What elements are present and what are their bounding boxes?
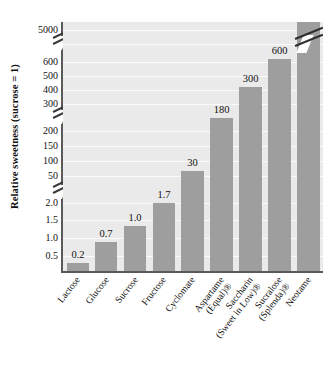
x-axis-category-labels: LactoseGlucoseSucroseFructoseCyclomateAs… <box>0 273 334 365</box>
bar-value-label: 30 <box>187 158 198 169</box>
y-axis-tick-labels: 5000600500400300200150100502.01.51.00.5 <box>24 0 60 280</box>
plot-area: 0.20.71.01.7301803006007000 <box>63 22 323 271</box>
y-tick-label: 5000 <box>38 25 58 35</box>
bar-value-label: 1.0 <box>128 213 141 224</box>
y-tick-label: 0.5 <box>46 251 59 261</box>
bar[interactable] <box>268 59 291 271</box>
category-label-name: Sucrose <box>113 274 140 305</box>
bar-value-label: 1.7 <box>157 190 170 201</box>
bar[interactable] <box>67 263 89 271</box>
bar-value-label: 0.2 <box>71 250 84 261</box>
bar-value-label: 180 <box>214 105 230 116</box>
bar[interactable] <box>153 203 175 271</box>
bar-value-label: 300 <box>243 74 259 85</box>
bar[interactable] <box>95 242 117 271</box>
bar-value-label: 0.7 <box>99 229 112 240</box>
bar[interactable] <box>297 22 320 271</box>
bar[interactable] <box>210 118 233 271</box>
bar[interactable] <box>124 226 146 271</box>
y-tick-label: 2.0 <box>46 198 59 208</box>
y-tick-label: 50 <box>48 171 58 181</box>
bar-value-label: 600 <box>272 46 288 57</box>
category-label-name: Fructose <box>139 274 168 307</box>
y-tick-label: 1.5 <box>46 215 59 225</box>
y-axis-title-text: Relative sweetness (sucrose = 1) <box>9 64 20 209</box>
y-tick-label: 150 <box>43 141 58 151</box>
category-label-name: Glucose <box>83 274 111 306</box>
bar[interactable] <box>181 171 204 271</box>
y-tick-label: 1.0 <box>46 233 59 243</box>
y-axis-title: Relative sweetness (sucrose = 1) <box>2 0 26 272</box>
sweetness-bar-chart: Relative sweetness (sucrose = 1) 5000600… <box>0 0 334 365</box>
y-tick-label: 100 <box>43 156 58 166</box>
gridline <box>63 30 323 31</box>
y-tick-label: 600 <box>43 57 58 67</box>
y-tick-label: 300 <box>43 99 58 109</box>
y-tick-label: 400 <box>43 85 58 95</box>
y-tick-label: 500 <box>43 71 58 81</box>
bar[interactable] <box>239 87 262 271</box>
category-label-name: Lactose <box>55 274 82 304</box>
y-tick-label: 200 <box>43 126 58 136</box>
